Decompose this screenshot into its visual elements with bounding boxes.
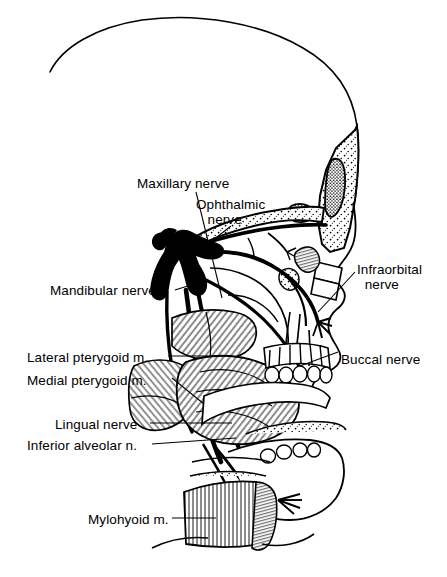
frontal-bone-block (288, 126, 358, 252)
label-medial-pterygoid-muscle: Medial pterygoid m. (27, 373, 147, 388)
maxillary-teeth (264, 344, 332, 384)
label-mandibular-nerve: Mandibular nerve (50, 283, 156, 298)
label-lateral-pterygoid-muscle: Lateral pterygoid m. (27, 350, 148, 365)
cranial-vault-outline (50, 18, 358, 200)
label-lingual-nerve: Lingual nerve (55, 417, 137, 432)
label-maxillary-nerve: Maxillary nerve (137, 176, 229, 191)
label-buccal-nerve: Buccal nerve (341, 352, 420, 367)
label-infraorbital-nerve: Infraorbital nerve (357, 262, 422, 292)
anatomy-figure: Maxillary nerve Ophthalmic nerve Mandibu… (0, 0, 447, 577)
label-inferior-alveolar-nerve: Inferior alveolar n. (27, 438, 137, 453)
label-mylohyoid-muscle: Mylohyoid m. (88, 512, 169, 527)
lateral-pterygoid-muscle (172, 310, 256, 360)
label-ophthalmic-nerve: Ophthalmic nerve (196, 197, 265, 227)
